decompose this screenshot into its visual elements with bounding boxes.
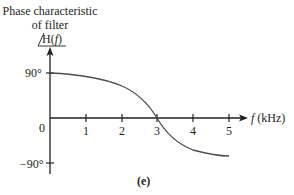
x-tick-label-4: 4: [190, 124, 196, 138]
x-tick-label-2: 2: [119, 124, 125, 138]
x-tick-label-1: 1: [83, 124, 89, 138]
origin-label: 0: [39, 121, 45, 135]
x-tick-label-5: 5: [226, 124, 232, 138]
phase-curve: [50, 73, 229, 156]
x-axis-label: f (kHz): [251, 111, 285, 125]
phase-chart: [0, 0, 294, 195]
y-tick-label-neg90: −90°: [20, 157, 44, 171]
x-axis: [50, 114, 248, 122]
x-tick-label-3: 3: [154, 124, 160, 138]
figure-caption: (e): [137, 174, 150, 189]
y-tick-label-90: 90°: [25, 66, 42, 80]
y-axis: [46, 47, 54, 174]
angle-symbol-icon: [38, 33, 66, 46]
